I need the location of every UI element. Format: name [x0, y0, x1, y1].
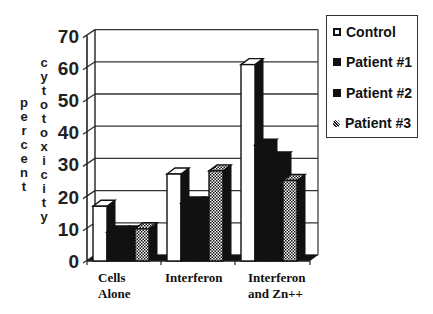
svg-text:50: 50 [58, 90, 79, 111]
category-label: CellsAlone [98, 270, 131, 302]
svg-text:0: 0 [68, 251, 79, 272]
bar [135, 223, 157, 261]
bar [209, 165, 231, 261]
patient-2-swatch-icon [333, 89, 341, 97]
svg-text:30: 30 [58, 154, 79, 175]
svg-text:60: 60 [58, 58, 79, 79]
patient-1-swatch-icon [333, 58, 341, 66]
svg-text:40: 40 [58, 122, 79, 143]
y-axis-label-cytotoxicity: cytotoxicity [38, 56, 50, 224]
svg-text:70: 70 [58, 26, 79, 47]
bar [283, 175, 305, 262]
legend-item-patient-3: Patient #3 [333, 115, 411, 131]
patient-3-swatch-icon [333, 120, 340, 127]
category-label: Interferonand Zn++ [248, 270, 306, 302]
y-axis-label-percent: percent [18, 96, 30, 194]
legend-item-control: Control [333, 24, 396, 40]
y-tick-labels: 010203040506070 [58, 26, 79, 272]
legend-item-patient-2: Patient #2 [333, 85, 412, 101]
legend-item-patient-1: Patient #1 [333, 54, 412, 70]
control-swatch-icon [333, 28, 341, 36]
svg-text:10: 10 [58, 219, 79, 240]
legend: Control Patient #1 Patient #2 Patient #3 [326, 15, 418, 138]
bars [93, 59, 305, 261]
category-label: Interferon [165, 270, 223, 286]
svg-text:20: 20 [58, 187, 79, 208]
